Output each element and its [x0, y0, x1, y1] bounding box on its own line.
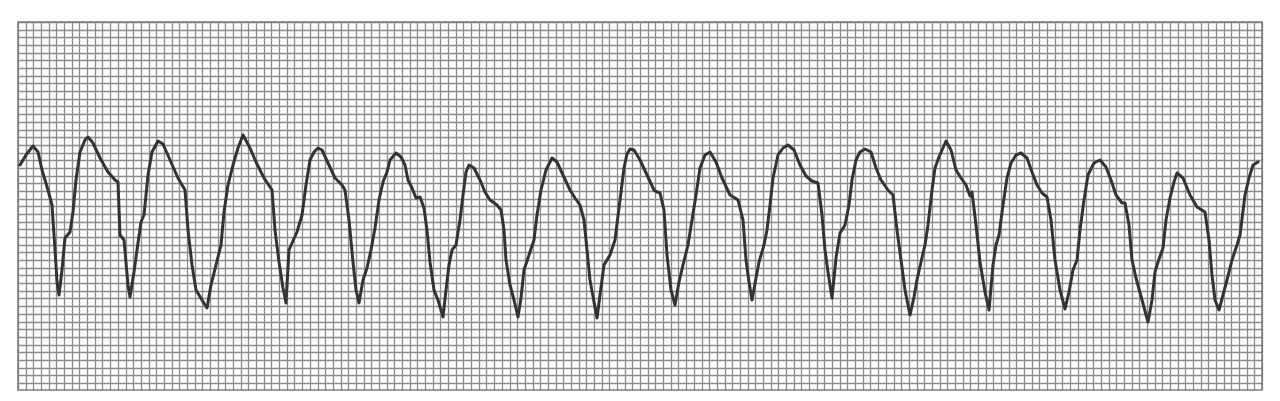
ecg-strip — [0, 0, 1280, 401]
